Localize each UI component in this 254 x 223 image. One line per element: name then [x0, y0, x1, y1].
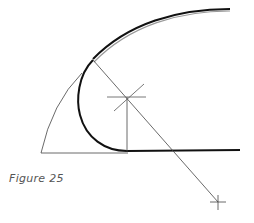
upper-curve — [93, 9, 230, 59]
diagonal-line — [93, 60, 218, 202]
tangent-line — [127, 150, 240, 151]
construction-arc — [41, 73, 82, 153]
cross-mark — [210, 195, 226, 210]
figure-caption: Figure 25 — [9, 172, 64, 185]
geometric-construction-diagram — [0, 0, 254, 223]
